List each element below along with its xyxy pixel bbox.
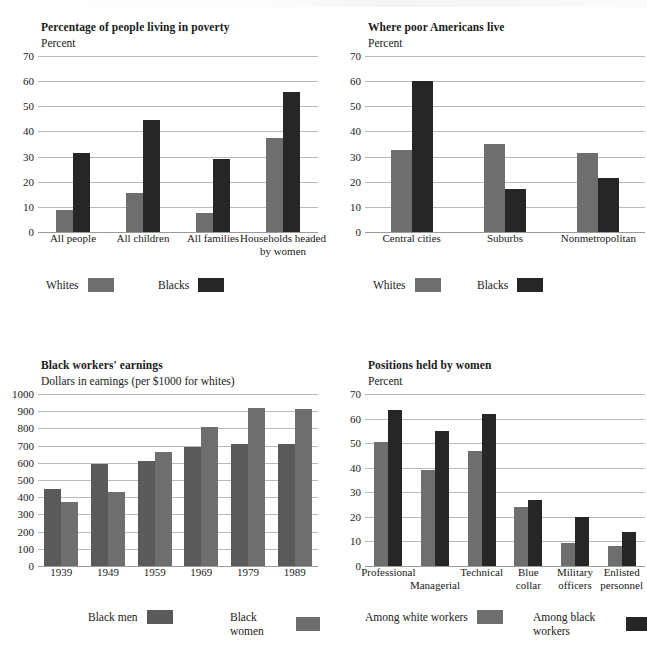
chart-title: Percentage of people living in poverty [0,20,320,34]
y-tick-label: 0 [356,227,362,238]
bar [388,410,402,566]
y-tick-label: 20 [23,176,34,187]
x-tick-label: Enlisted personnel [593,566,647,592]
bar [138,461,155,566]
y-axis-ticks: 010203040506070 [0,56,38,232]
y-tick-label: 100 [18,543,35,554]
y-axis-ticks: 01002003004005006007008009001000 [0,394,38,566]
legend-item: Among black workers [533,610,647,638]
bar-group [38,56,108,232]
y-tick-label: 400 [18,492,35,503]
chart-subtitle: Percent [0,36,320,50]
x-axis-labels: Central citiesSuburbsNonmetropolitan [365,232,645,266]
legend-label: Among white workers [365,610,468,624]
legend-swatch [88,278,114,292]
legend-item: Black women [230,610,320,638]
x-tick-label: Suburbs [487,232,523,245]
y-tick-label: 10 [350,536,361,547]
x-axis-labels: ProfessionalManagerialTechnicalBlue coll… [365,566,645,600]
x-tick-label: All children [117,232,170,245]
y-axis-ticks: 010203040506070 [327,394,365,566]
y-tick-label: 800 [18,423,35,434]
bar [561,543,575,566]
bar [482,414,496,566]
bar-group [505,394,552,566]
legend-item: Among white workers [365,610,503,624]
legend-label: Blacks [158,278,189,292]
x-tick-label: Military officers [552,566,598,592]
bar [73,153,90,232]
x-tick-label: 1949 [97,566,119,579]
y-tick-label: 20 [350,511,361,522]
y-axis-ticks: 010203040506070 [327,56,365,232]
bar [435,431,449,566]
y-tick-label: 60 [23,76,34,87]
legend-label: Black men [88,610,138,624]
bars-area [365,56,645,232]
scan-artifact-strip [0,0,647,7]
bar [468,451,482,566]
legend-swatch [198,278,224,292]
bar [91,464,108,566]
bar [283,92,300,232]
x-tick-label: Managerial [410,579,460,592]
bar [266,138,283,232]
bar-group [131,394,178,566]
x-axis-labels: 193919491959196919791989 [38,566,318,600]
bar [231,444,248,566]
chart-title: Where poor Americans live [327,20,647,34]
x-tick-label: All people [50,232,96,245]
chart-legend: Among white workersAmong black workers [327,610,647,630]
bar [608,546,622,566]
y-tick-label: 200 [18,526,35,537]
bar-group [412,394,459,566]
bar [622,532,636,566]
chart-legend: WhitesBlacks [0,278,320,298]
y-tick-label: 30 [23,151,34,162]
y-tick-label: 50 [23,101,34,112]
bars-area [38,394,318,566]
bar [155,452,172,566]
plot-area: 010203040506070 [0,56,320,232]
bar [201,427,218,566]
y-tick-label: 500 [18,475,35,486]
bar [528,500,542,566]
bar-group [248,56,318,232]
bar [278,444,295,566]
legend-label: Whites [373,278,406,292]
y-tick-label: 70 [23,51,34,62]
y-tick-label: 700 [18,440,35,451]
bar [61,502,78,567]
bar-group [365,394,412,566]
y-tick-label: 40 [350,462,361,473]
y-tick-label: 600 [18,457,35,468]
bar [196,213,213,232]
bar [44,489,61,566]
bar [108,492,125,566]
bar [514,507,528,566]
y-tick-label: 60 [350,76,361,87]
bar [391,150,412,232]
x-tick-label: 1979 [237,566,259,579]
y-tick-label: 300 [18,509,35,520]
bar [126,193,143,232]
bar [577,153,598,232]
x-tick-label: 1959 [144,566,166,579]
chart-legend: Black menBlack women [0,610,320,630]
plot-area: 010203040506070 [327,56,647,232]
bar-group [552,56,645,232]
legend-swatch [147,610,173,624]
y-tick-label: 20 [350,176,361,187]
x-tick-label: Blue collar [509,566,547,592]
chart-panel-black-workers-earnings: Black workers' earnings Dollars in earni… [0,358,320,646]
x-tick-label: 1969 [190,566,212,579]
bar [421,470,435,566]
y-tick-label: 30 [350,487,361,498]
bar-group [365,56,458,232]
bar-group [38,394,85,566]
chart-title: Black workers' earnings [0,358,320,372]
legend-item: Whites [46,278,114,292]
legend-swatch [296,617,320,631]
x-tick-label: Central cities [382,232,440,245]
y-tick-label: 40 [350,126,361,137]
